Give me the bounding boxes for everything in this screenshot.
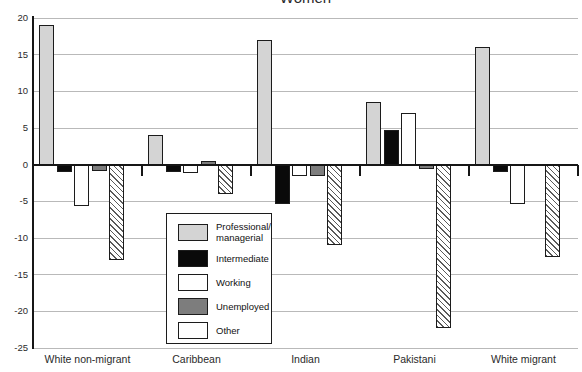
category-separator-tick [141, 165, 143, 176]
bar-white-migrant-other [545, 165, 560, 257]
category-separator-tick [468, 165, 470, 176]
category-separator-tick [250, 165, 252, 176]
legend-item-intermediate: Intermediate [178, 250, 271, 267]
gridline--25 [33, 348, 578, 349]
bar-white-migrant-working [510, 165, 525, 204]
gridline--15 [33, 274, 578, 275]
legend-swatch-intermediate [178, 250, 208, 267]
legend-label-professional-managerial: Professional/ managerial [216, 221, 271, 243]
bar-white-migrant-professional-managerial [475, 47, 490, 164]
legend-swatch-unemployed [178, 298, 208, 315]
bar-pakistani-other [436, 165, 451, 329]
bar-caribbean-intermediate [166, 165, 181, 172]
y-axis-label-0: 0 [1, 160, 28, 170]
bar-white-non-migrant-other [109, 165, 124, 260]
legend-item-other: Other [178, 322, 271, 339]
bar-indian-intermediate [275, 165, 290, 204]
legend-item-working: Working [178, 274, 271, 291]
y-axis-label--25: -25 [1, 343, 28, 353]
legend-item-unemployed: Unemployed [178, 298, 271, 315]
legend-label-unemployed: Unemployed [216, 301, 269, 312]
legend: Professional/ managerial Intermediate Wo… [166, 213, 272, 344]
gridline-15 [33, 54, 578, 55]
legend-label-working: Working [216, 277, 251, 288]
bar-pakistani-working [401, 113, 416, 164]
x-axis-label-white-migrant: White migrant [469, 353, 578, 365]
category-separator-tick [577, 165, 579, 176]
legend-swatch-professional-managerial [178, 224, 208, 241]
chart-title: Women [33, 0, 578, 5]
x-axis-label-caribbean: Caribbean [142, 353, 251, 365]
legend-swatch-working [178, 274, 208, 291]
bar-white-non-migrant-working [74, 165, 89, 206]
bar-indian-working [292, 165, 307, 177]
gridline-5 [33, 128, 578, 129]
y-axis-label--10: -10 [1, 233, 28, 243]
y-axis-label--15: -15 [1, 270, 28, 280]
x-axis-label-indian: Indian [251, 353, 360, 365]
bar-chart: Women Professional/ managerial Intermedi… [0, 0, 582, 372]
y-axis-line [32, 16, 34, 349]
bar-caribbean-professional-managerial [148, 135, 163, 164]
x-axis-zero-line [33, 164, 578, 166]
bar-caribbean-other [218, 165, 233, 194]
bar-indian-unemployed [310, 165, 325, 176]
x-axis-label-pakistani: Pakistani [360, 353, 469, 365]
bar-white-migrant-intermediate [493, 165, 508, 172]
legend-item-professional-managerial: Professional/ managerial [178, 221, 271, 243]
bar-pakistani-professional-managerial [366, 102, 381, 164]
gridline-10 [33, 91, 578, 92]
x-axis-label-white-non-migrant: White non-migrant [33, 353, 142, 365]
bar-white-non-migrant-intermediate [57, 165, 72, 172]
y-axis-label-10: 10 [1, 86, 28, 96]
bar-pakistani-intermediate [384, 130, 399, 164]
y-axis-label--5: -5 [1, 196, 28, 206]
legend-label-other: Other [216, 325, 240, 336]
y-axis-label-5: 5 [1, 123, 28, 133]
legend-label-intermediate: Intermediate [216, 253, 269, 264]
bar-indian-professional-managerial [257, 40, 272, 165]
gridline--20 [33, 311, 578, 312]
category-separator-tick [359, 165, 361, 176]
y-axis-label-15: 15 [1, 50, 28, 60]
y-axis-label--20: -20 [1, 306, 28, 316]
bar-white-non-migrant-professional-managerial [39, 25, 54, 164]
legend-swatch-other [178, 322, 208, 339]
bar-caribbean-working [183, 165, 198, 174]
gridline-20 [33, 18, 578, 19]
bar-indian-other [327, 165, 342, 246]
y-axis-label-20: 20 [1, 13, 28, 23]
